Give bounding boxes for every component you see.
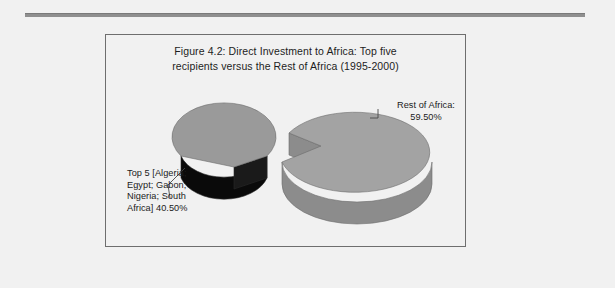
pie-chart-svg <box>106 35 467 248</box>
pie-label-rest-of-africa: Rest of Africa: 59.50% <box>385 100 467 123</box>
pie-chart <box>106 35 467 248</box>
pie-slice-rest-of-africa[interactable] <box>282 112 432 224</box>
pie-label-rest-name: Rest of Africa: <box>397 100 455 110</box>
header-rule <box>25 13 585 17</box>
pie-label-top5: Top 5 [Algeria; Egypt; Gabon; Nigeria; S… <box>127 168 213 214</box>
pie-label-top5-line-4: Africa] 40.50% <box>127 203 187 213</box>
figure-frame: Figure 4.2: Direct Investment to Africa:… <box>105 34 466 247</box>
pie-label-top5-line-2: Egypt; Gabon; <box>127 180 186 190</box>
page-canvas: Figure 4.2: Direct Investment to Africa:… <box>0 0 615 288</box>
pie-label-top5-line-1: Top 5 [Algeria; <box>127 168 186 178</box>
pie-label-top5-line-3: Nigeria; South <box>127 191 186 201</box>
pie-slice-top5-top <box>172 103 276 167</box>
pie-label-rest-value: 59.50% <box>385 112 467 124</box>
